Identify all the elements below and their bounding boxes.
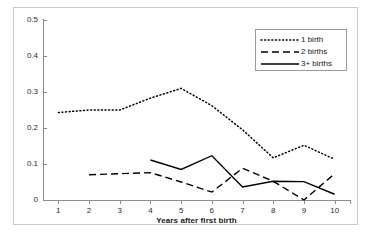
series-line-3-births — [150, 156, 334, 195]
legend-line-sample-dashed — [260, 47, 300, 57]
legend-item-label: 1 birth — [301, 35, 323, 44]
legend-item: 1 birth — [260, 34, 344, 45]
legend-item: 2 births — [260, 46, 344, 57]
legend-item: 3+ births — [260, 58, 344, 69]
chart-legend: 1 birth2 births3+ births — [255, 29, 347, 71]
series-line-1-birth — [58, 88, 334, 159]
series-line-2-births — [89, 168, 335, 200]
x-axis-title: Years after first birth — [43, 216, 350, 225]
legend-line-sample-dotted — [260, 35, 300, 45]
legend-item-label: 3+ births — [301, 59, 332, 68]
legend-line-sample-solid — [260, 59, 300, 69]
legend-item-label: 2 births — [301, 47, 327, 56]
chart-figure: 00.10.20.30.40.5 12345678910 Years after… — [0, 0, 377, 241]
